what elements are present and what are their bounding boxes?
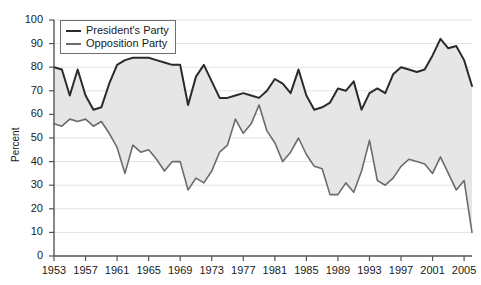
- x-tick-label: 1969: [163, 264, 197, 276]
- x-tick-label: 1985: [289, 264, 323, 276]
- legend-label-opposition-party: Opposition Party: [86, 37, 167, 50]
- chart-legend: President's Party Opposition Party: [60, 20, 176, 54]
- y-tick-label: 100: [17, 13, 43, 25]
- legend-label-presidents-party: President's Party: [86, 24, 169, 37]
- x-tick-label: 2005: [447, 264, 481, 276]
- legend-swatch-presidents-party: [66, 30, 81, 32]
- x-tick-label: 1997: [384, 264, 418, 276]
- x-tick-label: 2001: [416, 264, 450, 276]
- y-tick-label: 20: [17, 202, 43, 214]
- x-tick-label: 1973: [195, 264, 229, 276]
- y-tick-label: 90: [17, 37, 43, 49]
- x-tick-label: 1993: [352, 264, 386, 276]
- x-tick-label: 1981: [258, 264, 292, 276]
- legend-entry-presidents-party: President's Party: [66, 24, 169, 37]
- y-tick-label: 40: [17, 155, 43, 167]
- legend-entry-opposition-party: Opposition Party: [66, 37, 169, 50]
- y-tick-label: 10: [17, 225, 43, 237]
- x-tick-label: 1953: [37, 264, 71, 276]
- y-tick-label: 0: [17, 249, 43, 261]
- legend-swatch-opposition-party: [66, 43, 81, 45]
- y-tick-label: 60: [17, 107, 43, 119]
- x-tick-label: 1977: [226, 264, 260, 276]
- x-tick-label: 1965: [132, 264, 166, 276]
- y-tick-label: 70: [17, 84, 43, 96]
- y-tick-label: 30: [17, 178, 43, 190]
- x-tick-label: 1989: [321, 264, 355, 276]
- x-tick-label: 1961: [100, 264, 134, 276]
- x-tick-label: 1957: [69, 264, 103, 276]
- y-tick-label: 50: [17, 131, 43, 143]
- y-tick-label: 80: [17, 60, 43, 72]
